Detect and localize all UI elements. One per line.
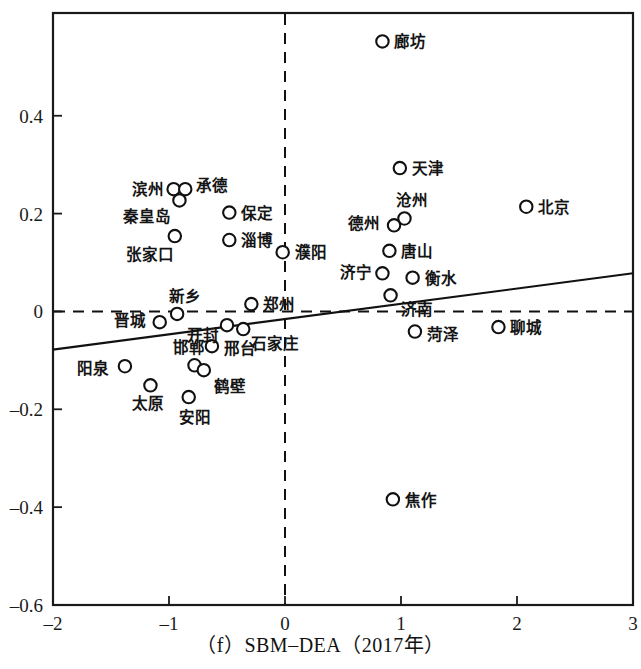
data-point [119, 360, 131, 372]
point-label: 焦作 [404, 491, 437, 510]
point-label: 太原 [132, 394, 164, 413]
y-tick-label: –0.4 [9, 497, 44, 518]
data-point [376, 35, 388, 47]
reference-lines [54, 14, 632, 604]
data-point [223, 234, 235, 246]
data-point [409, 325, 421, 337]
data-point [492, 321, 504, 333]
point-label: 邢台 [223, 339, 256, 358]
data-point [198, 364, 210, 376]
point-label: 郑州 [263, 295, 295, 314]
data-point [144, 379, 156, 391]
plot-frame [53, 13, 633, 605]
data-point [394, 162, 406, 174]
y-tick-label: –0.6 [9, 595, 43, 616]
data-point [383, 245, 395, 257]
data-point [245, 298, 257, 310]
point-label: 新乡 [169, 287, 201, 306]
data-points [119, 35, 533, 505]
scatter-plot: –2–101230.40.20–0.2–0.4–0.6 廊坊滨州承德秦皇岛张家口… [0, 0, 641, 669]
point-label: 保定 [240, 204, 273, 223]
data-point [388, 219, 400, 231]
data-point [387, 493, 399, 505]
y-tick-label: –0.2 [9, 399, 43, 420]
data-point [520, 201, 532, 213]
point-label: 北京 [538, 198, 570, 217]
chart-stage: –2–101230.40.20–0.2–0.4–0.6 廊坊滨州承德秦皇岛张家口… [0, 0, 641, 669]
data-point [169, 230, 181, 242]
figure-caption: （f）SBM–DEA（2017年） [0, 629, 641, 658]
y-tick-label: 0.2 [19, 204, 43, 225]
point-label: 濮阳 [295, 243, 327, 262]
point-label: 沧州 [396, 191, 428, 210]
data-point [171, 308, 183, 320]
point-label: 秦皇岛 [122, 207, 171, 226]
point-label: 安阳 [179, 408, 211, 427]
data-point [237, 323, 249, 335]
data-point [276, 246, 288, 258]
point-label: 承德 [196, 176, 228, 195]
point-label: 阳泉 [77, 359, 109, 378]
point-label: 鹤壁 [214, 377, 246, 396]
point-label: 菏泽 [427, 326, 459, 344]
point-label: 唐山 [401, 242, 433, 261]
point-label: 廊坊 [394, 32, 426, 51]
point-label: 聊城 [510, 318, 542, 337]
y-tick-label: 0 [34, 301, 44, 322]
data-point [154, 316, 166, 328]
point-labels: 廊坊滨州承德秦皇岛张家口保定淄博濮阳天津北京沧州德州唐山济宁衡水济南菏泽聊城郑州… [77, 32, 570, 510]
point-label: 晋城 [114, 312, 146, 330]
data-point [223, 206, 235, 218]
point-label: 石家庄 [250, 334, 299, 353]
point-label: 淄博 [241, 231, 273, 250]
point-label: 德州 [348, 214, 380, 233]
data-point [406, 271, 418, 283]
data-point [376, 267, 388, 279]
data-point [173, 194, 185, 206]
point-label: 济宁 [340, 263, 372, 282]
data-point [183, 391, 195, 403]
point-label: 滨州 [132, 180, 164, 199]
point-label: 邯郸 [173, 338, 205, 357]
data-point [384, 289, 396, 301]
point-label: 济南 [401, 300, 433, 319]
point-label: 天津 [412, 160, 444, 178]
data-point [221, 319, 233, 331]
point-label: 衡水 [425, 269, 457, 288]
point-label: 张家口 [126, 245, 174, 264]
y-tick-label: 0.4 [19, 106, 43, 127]
